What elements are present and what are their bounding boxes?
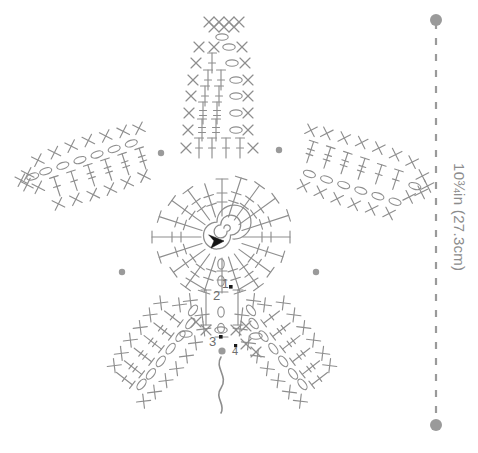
magic-ring-icon: [204, 205, 251, 249]
star-arm-bottom-right: [222, 280, 345, 412]
round-number-2: 2: [213, 288, 220, 303]
star-arm-bottom-left: [99, 280, 222, 412]
dimension-line: [430, 14, 442, 431]
dimension-endpoint-top: [430, 14, 442, 26]
round-number-1: 1: [222, 277, 229, 291]
marker-dot: [313, 269, 319, 275]
star-arm-left: [10, 118, 161, 221]
star-arm-top: [181, 17, 258, 158]
marker-dot: [119, 269, 125, 275]
marker-dot: [158, 150, 164, 156]
dimension-endpoint-bottom: [430, 419, 442, 431]
round-number-4: 4: [232, 345, 238, 357]
marker-dot: [276, 147, 282, 153]
crochet-chart-canvas: 10¾in (27.3cm) 1 2 3 4: [0, 0, 478, 453]
stitch-chart-svg: [0, 0, 478, 453]
round-number-3: 3: [209, 334, 216, 349]
dimension-label: 10¾in (27.3cm): [451, 163, 468, 271]
arm-tip-top: [204, 17, 244, 40]
motif-core: [152, 176, 290, 337]
star-arm-right: [287, 120, 440, 230]
marker-dot: [218, 347, 225, 354]
yarn-tail: [219, 357, 224, 413]
